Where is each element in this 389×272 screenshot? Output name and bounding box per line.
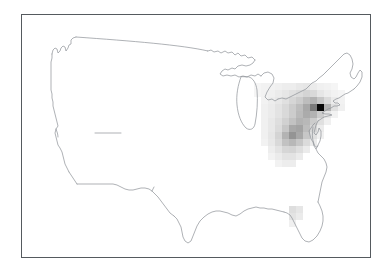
border-great-lakes-north bbox=[208, 50, 255, 60]
state-line-texas-panhandle bbox=[152, 187, 154, 191]
san-francisco-bay bbox=[56, 129, 58, 137]
lake-huron-and-thumb bbox=[261, 72, 278, 101]
coast-california bbox=[51, 54, 69, 172]
map-figure bbox=[0, 0, 389, 272]
map-layer bbox=[22, 15, 370, 257]
coast-pacific-northwest bbox=[52, 37, 76, 54]
lake-superior-south-shore bbox=[220, 60, 261, 77]
lake-erie-ontario-st-lawrence bbox=[278, 72, 326, 99]
coast-new-england bbox=[318, 89, 354, 121]
border-canada-west bbox=[76, 37, 208, 51]
coast-southeast bbox=[316, 149, 327, 202]
us-outline-layer bbox=[22, 15, 371, 258]
map-plot-frame bbox=[21, 14, 371, 258]
lake-michigan bbox=[237, 77, 258, 129]
coast-florida bbox=[284, 202, 323, 242]
border-maine-canada bbox=[326, 53, 362, 89]
coast-mid-atlantic bbox=[309, 121, 321, 149]
border-california-mexico bbox=[69, 172, 77, 184]
border-mexico-rio-grande bbox=[77, 184, 174, 216]
coast-gulf bbox=[174, 207, 284, 243]
